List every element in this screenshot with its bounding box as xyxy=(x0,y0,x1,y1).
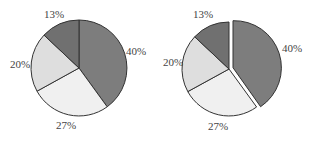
left-label-27: 27% xyxy=(56,119,76,131)
pie-charts-canvas: 40% 27% 20% 13% 40% 27% 20% 13% xyxy=(0,0,309,143)
right-label-27: 27% xyxy=(208,120,228,132)
left-pie-chart xyxy=(31,20,127,116)
left-label-20: 20% xyxy=(10,58,30,70)
right-label-13: 13% xyxy=(193,8,213,20)
right-pie-chart xyxy=(182,21,281,116)
right-label-40: 40% xyxy=(282,42,302,54)
right-label-20: 20% xyxy=(163,56,183,68)
left-label-13: 13% xyxy=(44,8,64,20)
left-label-40: 40% xyxy=(126,45,146,57)
